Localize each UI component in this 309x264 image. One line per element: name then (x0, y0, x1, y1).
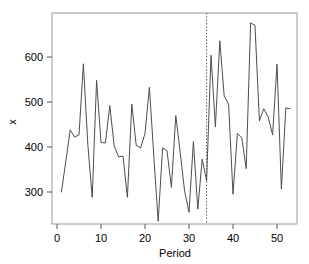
y-tick-label-400: 400 (25, 141, 43, 153)
chart-figure: 600 500 400 300 x 0 10 20 30 40 50 Perio… (0, 0, 309, 264)
y-tick-label-500: 500 (25, 96, 43, 108)
x-tick-label-30: 30 (183, 232, 195, 244)
x-tick-label-50: 50 (271, 232, 283, 244)
y-axis-ticks (47, 57, 52, 192)
line-chart: 600 500 400 300 x 0 10 20 30 40 50 Perio… (0, 0, 309, 264)
y-axis-tick-labels: 600 500 400 300 (25, 51, 43, 198)
x-axis-title: Period (159, 247, 191, 259)
x-tick-label-0: 0 (54, 232, 60, 244)
y-tick-label-600: 600 (25, 51, 43, 63)
y-axis-title: x (6, 119, 18, 125)
x-axis-ticks (57, 224, 277, 229)
x-tick-label-40: 40 (227, 232, 239, 244)
x-axis-tick-labels: 0 10 20 30 40 50 (54, 232, 283, 244)
x-tick-label-10: 10 (95, 232, 107, 244)
y-tick-label-300: 300 (25, 186, 43, 198)
x-tick-label-20: 20 (139, 232, 151, 244)
